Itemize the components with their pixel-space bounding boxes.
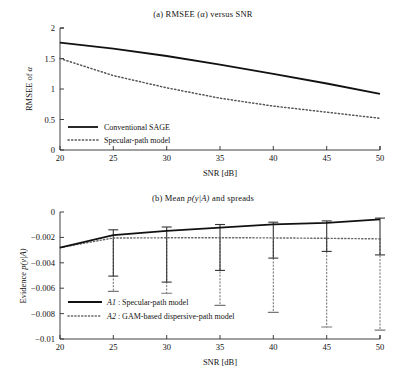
panel-a-series-sage xyxy=(60,43,380,94)
panel-b-legend-label-0: A1 : Specular-path model xyxy=(106,298,189,307)
panel-a-xtick-30: 30 xyxy=(162,153,171,163)
panel-a-ytick-0: 0 xyxy=(51,145,55,155)
panel-b-errorbars-a1 xyxy=(108,218,385,282)
panel-a-xtick-50: 50 xyxy=(376,153,385,163)
panel-b-ytick-004: −0.004 xyxy=(31,258,56,268)
panel-b-plot: 0 −0.002 −0.004 −0.006 −0.008 −0.01 20 2… xyxy=(0,186,406,373)
panel-a-ytick-2: 2 xyxy=(51,23,55,33)
panel-a-xlabel: SNR [dB] xyxy=(203,168,237,178)
figure-container: (a) RMSEE (α) versus SNR 0 0.5 1 1.5 xyxy=(0,0,406,373)
panel-b-legend: A1 : Specular-path model A2 : GAM-based … xyxy=(68,298,235,321)
panel-b-ytick-0: 0 xyxy=(51,207,55,217)
panel-a-x-ticks: 20 25 30 35 40 45 50 xyxy=(56,146,385,163)
panel-a-legend: Conventional SAGE Specular-path model xyxy=(68,123,171,145)
panel-b-xtick-45: 45 xyxy=(322,342,331,352)
panel-a-xtick-45: 45 xyxy=(322,153,331,163)
panel-a-legend-label-1: Specular-path model xyxy=(104,136,171,145)
panel-b-ytick-008: −0.008 xyxy=(31,309,55,319)
panel-b-xtick-20: 20 xyxy=(56,342,65,352)
panel-b-xtick-50: 50 xyxy=(376,342,385,352)
panel-a-ytick-15: 1.5 xyxy=(44,54,55,64)
panel-b-x-ticks: 20 25 30 35 40 45 50 xyxy=(56,335,385,352)
panel-a-ylabel: RMSEE of α xyxy=(24,66,34,111)
panel-a-plot: 0 0.5 1 1.5 2 20 25 30 35 40 45 xyxy=(0,0,406,186)
panel-a-xtick-35: 35 xyxy=(216,153,225,163)
panel-b-y-ticks: 0 −0.002 −0.004 −0.006 −0.008 −0.01 xyxy=(31,207,64,344)
panel-b-legend-label-1: A2 : GAM-based dispersive-path model xyxy=(106,312,235,321)
panel-b-xtick-30: 30 xyxy=(162,342,171,352)
panel-a-xtick-25: 25 xyxy=(109,153,118,163)
panel-a-series-specular xyxy=(60,59,380,119)
panel-b-ytick-01: −0.01 xyxy=(35,334,55,344)
panel-b-ylabel: Evidence p(y|A) xyxy=(18,248,28,303)
panel-b-xlabel: SNR [dB] xyxy=(203,357,237,367)
panel-a: (a) RMSEE (α) versus SNR 0 0.5 1 1.5 xyxy=(0,0,406,186)
panel-a-xtick-40: 40 xyxy=(269,153,278,163)
panel-a-xtick-20: 20 xyxy=(56,153,65,163)
panel-b-xtick-40: 40 xyxy=(269,342,278,352)
panel-b-xtick-25: 25 xyxy=(109,342,118,352)
panel-b-ytick-006: −0.006 xyxy=(31,283,55,293)
panel-b-ytick-002: −0.002 xyxy=(31,232,55,242)
panel-b: (b) Mean p(y|A) and spreads 0 −0.002 −0.… xyxy=(0,186,406,373)
panel-a-ytick-05: 0.5 xyxy=(44,115,55,125)
panel-a-ytick-1: 1 xyxy=(51,84,55,94)
panel-a-legend-label-0: Conventional SAGE xyxy=(104,123,170,132)
panel-b-xtick-35: 35 xyxy=(216,342,225,352)
